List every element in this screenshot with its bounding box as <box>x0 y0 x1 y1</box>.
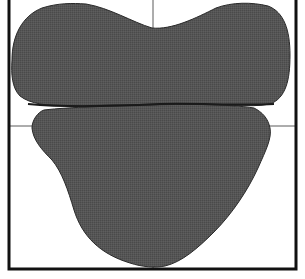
lower-lobe-shape <box>32 104 270 267</box>
upper-lobe-shape <box>12 3 290 106</box>
shape-diagram <box>0 0 305 279</box>
diagram-canvas <box>0 0 305 279</box>
